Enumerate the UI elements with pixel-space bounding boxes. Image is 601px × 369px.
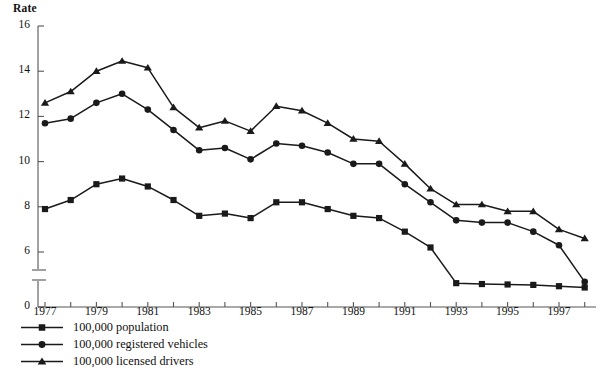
x-axis-tick-label: 1979 bbox=[76, 305, 116, 317]
legend-item: 100,000 population bbox=[18, 319, 348, 336]
data-point-marker bbox=[453, 217, 460, 224]
data-point-marker bbox=[145, 106, 152, 113]
y-axis-tick-label: 14 bbox=[8, 63, 30, 75]
data-point-marker bbox=[376, 215, 382, 221]
chart-legend: 100,000 population100,000 registered veh… bbox=[18, 319, 348, 369]
data-point-marker bbox=[479, 219, 486, 226]
data-point-marker bbox=[402, 229, 408, 235]
y-axis-ticks bbox=[38, 71, 44, 307]
data-point-marker bbox=[324, 149, 331, 156]
data-point-marker bbox=[93, 100, 100, 107]
data-point-marker bbox=[273, 140, 280, 147]
legend-item-label: 100,000 population bbox=[73, 319, 169, 336]
x-axis-tick-label: 1997 bbox=[539, 305, 579, 317]
data-point-marker bbox=[350, 161, 357, 168]
data-point-marker bbox=[350, 213, 356, 219]
data-point-marker bbox=[581, 279, 588, 286]
data-point-marker bbox=[427, 199, 434, 206]
data-point-marker bbox=[427, 244, 433, 250]
legend-marker-triangle-icon bbox=[18, 353, 66, 369]
data-point-marker bbox=[93, 181, 99, 187]
data-point-marker bbox=[479, 281, 485, 287]
data-point-marker bbox=[299, 199, 305, 205]
data-point-marker bbox=[196, 147, 203, 154]
x-axis-tick-label: 1987 bbox=[282, 305, 322, 317]
data-point-marker bbox=[170, 197, 176, 203]
x-axis-tick-label: 1985 bbox=[231, 305, 271, 317]
x-axis-tick-label: 1977 bbox=[25, 305, 65, 317]
x-axis-tick-label: 1991 bbox=[385, 305, 425, 317]
data-series bbox=[42, 91, 588, 286]
data-point-marker bbox=[402, 181, 409, 188]
data-point-marker bbox=[299, 142, 306, 149]
data-point-marker bbox=[221, 117, 229, 124]
data-point-marker bbox=[453, 280, 459, 286]
data-point-marker bbox=[273, 199, 279, 205]
data-point-marker bbox=[118, 57, 126, 64]
data-point-marker bbox=[248, 215, 254, 221]
data-point-marker bbox=[272, 102, 280, 109]
y-axis-tick-label: 8 bbox=[8, 199, 30, 211]
data-point-marker bbox=[556, 242, 563, 249]
x-axis-tick-label: 1989 bbox=[333, 305, 373, 317]
legend-item: 100,000 registered vehicles bbox=[18, 336, 348, 353]
data-point-marker bbox=[582, 284, 588, 290]
data-point-marker bbox=[349, 135, 357, 142]
data-point-marker bbox=[42, 206, 48, 212]
data-point-marker bbox=[325, 206, 331, 212]
y-axis-tick-label: 6 bbox=[8, 244, 30, 256]
x-axis-tick-label: 1983 bbox=[179, 305, 219, 317]
y-axis-tick-label: 16 bbox=[8, 18, 30, 30]
data-point-marker bbox=[505, 281, 511, 287]
data-point-marker bbox=[222, 145, 229, 152]
data-point-marker bbox=[67, 115, 74, 122]
data-point-marker bbox=[145, 183, 151, 189]
x-axis-tick-label: 1981 bbox=[128, 305, 168, 317]
data-point-marker bbox=[68, 197, 74, 203]
x-axis-tick-label: 1993 bbox=[436, 305, 476, 317]
data-point-marker bbox=[169, 103, 177, 110]
data-point-marker bbox=[247, 156, 254, 163]
legend-item-label: 100,000 licensed drivers bbox=[73, 353, 194, 369]
data-point-marker bbox=[196, 213, 202, 219]
legend-item: 100,000 licensed drivers bbox=[18, 353, 348, 369]
data-point-marker bbox=[119, 91, 126, 98]
data-point-marker bbox=[324, 119, 332, 126]
y-axis-tick-label: 12 bbox=[8, 108, 30, 120]
y-axis-tick-label: 10 bbox=[8, 154, 30, 166]
data-series bbox=[42, 175, 588, 290]
axis-lines bbox=[32, 26, 596, 307]
data-point-marker bbox=[504, 219, 511, 226]
legend-marker-square-icon bbox=[18, 319, 66, 336]
legend-item-label: 100,000 registered vehicles bbox=[73, 336, 208, 353]
data-series-layer bbox=[41, 57, 589, 290]
data-point-marker bbox=[556, 283, 562, 289]
data-point-marker bbox=[530, 228, 537, 235]
data-point-marker bbox=[376, 161, 383, 168]
data-point-marker bbox=[119, 175, 125, 181]
x-axis-tick-label: 1995 bbox=[488, 305, 528, 317]
data-point-marker bbox=[42, 120, 49, 127]
data-point-marker bbox=[530, 282, 536, 288]
data-point-marker bbox=[222, 210, 228, 216]
legend-marker-circle-icon bbox=[18, 336, 66, 353]
data-point-marker bbox=[170, 127, 177, 134]
chart-figure: Rate 06810121416 19771979198119831985198… bbox=[0, 0, 601, 369]
